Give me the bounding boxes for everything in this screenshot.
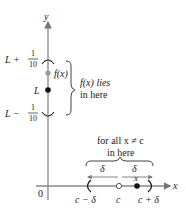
horizontal-brace-icon [86,157,153,166]
svg-text:L −: L − [4,108,20,119]
y-axis-label: y [43,11,49,22]
epsilon-delta-diagram: y x 0 L + 1 10 f(x) L L − 1 10 f(x) lies… [0,0,186,215]
fx-lies-text: f(x) lies [80,77,110,89]
c-point [116,183,121,188]
upper-bound-label: L + 1 10 [4,49,38,69]
fx-lies-text-2: in here [80,89,108,100]
c-label: c [116,194,121,205]
L-point [45,87,51,93]
svg-text:1: 1 [31,103,35,112]
svg-text:10: 10 [29,60,37,69]
fx-label: f(x) [54,68,69,80]
x-point-label: x [133,173,138,183]
svg-text:L +: L + [4,54,20,65]
svg-text:1: 1 [31,49,35,58]
lower-bound-label: L − 1 10 [4,103,38,123]
L-label: L [33,85,40,96]
c-minus-delta-label: c − δ [75,194,96,205]
c-plus-delta-label: c + δ [138,194,159,205]
svg-text:10: 10 [29,114,37,123]
delta-left-label: δ [100,163,105,174]
for-all-text: for all x ≠ c [97,135,144,146]
for-all-text-2: in here [107,147,135,158]
x-point [134,183,140,189]
fx-point [45,70,50,75]
x-axis-label: x [172,180,178,191]
origin-label: 0 [38,188,43,199]
